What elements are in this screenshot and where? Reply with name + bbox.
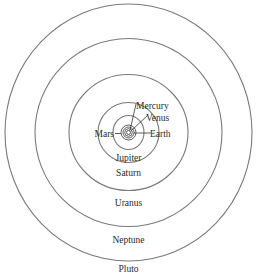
planet-labels: PlutoNeptuneUranusSaturnJupiterMercuryVe… bbox=[94, 101, 170, 274]
solar-system-orbit-diagram: PlutoNeptuneUranusSaturnJupiterMercuryVe… bbox=[0, 0, 258, 274]
label-earth: Earth bbox=[150, 129, 171, 139]
inner-orbits bbox=[121, 125, 136, 140]
orbit-mercury bbox=[127, 131, 131, 135]
orbit-pluto bbox=[5, 4, 252, 261]
label-pluto: Pluto bbox=[118, 264, 138, 274]
label-venus: Venus bbox=[146, 113, 170, 123]
label-mercury: Mercury bbox=[136, 101, 169, 111]
label-saturn: Saturn bbox=[116, 168, 141, 178]
label-neptune: Neptune bbox=[112, 235, 144, 245]
label-uranus: Uranus bbox=[115, 198, 143, 208]
label-mars: Mars bbox=[94, 129, 114, 139]
label-jupiter: Jupiter bbox=[116, 153, 143, 163]
orbit-jupiter bbox=[113, 116, 144, 150]
orbit-venus bbox=[125, 129, 133, 137]
outer-orbits bbox=[5, 4, 252, 261]
